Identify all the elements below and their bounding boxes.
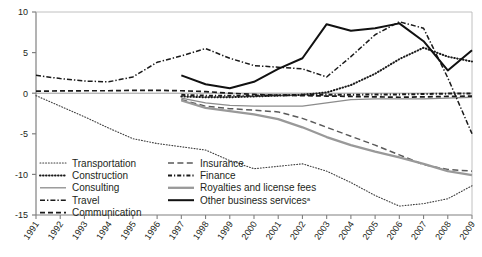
y-tick-label: 0 — [23, 89, 28, 99]
legend-label-other-business-services: Other business servicesa — [200, 195, 311, 206]
y-tick-label: -10 — [15, 170, 28, 180]
x-tick-label: 1993 — [70, 219, 90, 241]
x-tick-label: 1997 — [167, 219, 187, 241]
x-tick-label: 1996 — [143, 219, 163, 241]
x-tick-label: 2004 — [336, 219, 356, 241]
y-tick-label: 5 — [23, 48, 28, 58]
x-tick-label: 2005 — [361, 219, 381, 241]
series-line-other-business-services — [181, 23, 472, 88]
legend-label-transportation: Transportation — [72, 158, 136, 169]
x-tick-label: 2008 — [433, 219, 453, 241]
y-tick-label: -5 — [20, 129, 28, 139]
x-tick-label: 1999 — [215, 219, 235, 241]
series-line-travel — [36, 22, 472, 134]
x-tick-label: 2006 — [385, 219, 405, 241]
legend-item[interactable]: Construction — [40, 170, 128, 181]
legend-item[interactable]: Travel — [40, 195, 99, 206]
x-tick-label: 1992 — [46, 219, 66, 241]
legend-item[interactable]: Communication — [40, 207, 141, 218]
x-tick-label: 1994 — [94, 219, 114, 241]
x-tick-label: 2003 — [312, 219, 332, 241]
legend-item[interactable]: Insurance — [168, 158, 244, 169]
legend-item[interactable]: Other business servicesa — [168, 195, 311, 206]
legend-label-construction: Construction — [72, 170, 128, 181]
x-tick-label: 2009 — [457, 219, 477, 241]
y-axis-ticks: 1050-5-10-15 — [15, 7, 36, 220]
legend-label-finance: Finance — [200, 170, 236, 181]
x-tick-label: 2002 — [288, 219, 308, 241]
legend-label-royalties-and-license-fees: Royalties and license fees — [200, 182, 316, 193]
y-tick-label: 10 — [18, 7, 28, 17]
legend-label-communication: Communication — [72, 207, 141, 218]
x-axis-ticks: 1991199219931994199519961997199819992000… — [21, 215, 477, 242]
chart-container: 1050-5-10-151991199219931994199519961997… — [0, 0, 482, 257]
y-tick-label: -15 — [15, 210, 28, 220]
legend-label-insurance: Insurance — [200, 158, 244, 169]
legend-label-consulting: Consulting — [72, 182, 119, 193]
x-tick-label: 2001 — [264, 219, 284, 241]
x-tick-label: 1995 — [118, 219, 138, 241]
legend-item[interactable]: Royalties and license fees — [168, 182, 316, 193]
series-line-consulting — [181, 97, 472, 106]
x-tick-label: 1991 — [21, 219, 41, 241]
line-chart: 1050-5-10-151991199219931994199519961997… — [0, 0, 482, 257]
legend-item[interactable]: Transportation — [40, 158, 136, 169]
x-tick-label: 2007 — [409, 219, 429, 241]
legend-item[interactable]: Consulting — [40, 182, 119, 193]
x-tick-label: 1998 — [191, 219, 211, 241]
legend-label-travel: Travel — [72, 195, 99, 206]
legend-item[interactable]: Finance — [168, 170, 236, 181]
x-tick-label: 2000 — [239, 219, 259, 241]
series-line-construction — [181, 48, 472, 98]
